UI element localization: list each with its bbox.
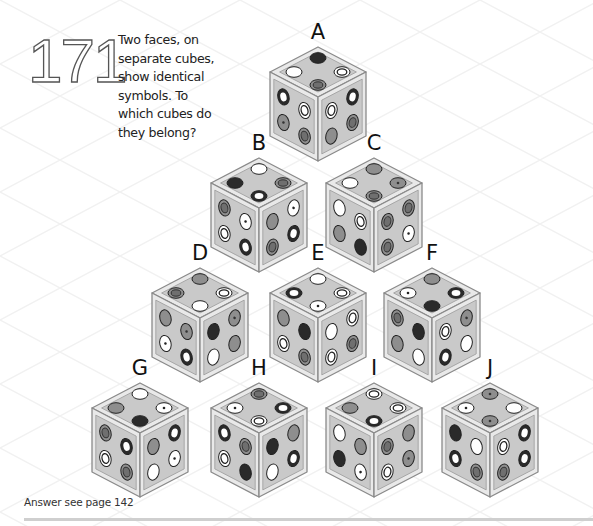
- grey-target-symbol-icon: [251, 389, 267, 400]
- cube-grid: ABCDEFGHIJ: [0, 0, 593, 526]
- target-symbol-icon: [366, 389, 382, 400]
- grey-target-symbol-icon: [168, 288, 184, 299]
- dot-symbol-icon: [458, 403, 474, 414]
- white-symbol-icon: [251, 164, 267, 175]
- dot-symbol-icon: [310, 301, 326, 312]
- white-symbol-icon: [342, 178, 358, 189]
- cube-label: F: [426, 241, 438, 265]
- answer-note: Answer see page 142: [24, 496, 134, 508]
- white-symbol-icon: [310, 274, 326, 285]
- cube-label: H: [251, 356, 267, 380]
- cube-label: B: [252, 131, 266, 155]
- black-symbol-icon: [132, 416, 148, 427]
- grey-symbol-icon: [192, 274, 208, 285]
- dot-symbol-icon: [227, 403, 243, 414]
- cube-g[interactable]: G: [92, 356, 188, 497]
- grey-target-symbol-icon: [310, 80, 326, 91]
- white-symbol-icon: [506, 403, 522, 414]
- cube-h[interactable]: H: [211, 356, 307, 497]
- cube-label: I: [371, 356, 377, 380]
- target-symbol-icon: [251, 416, 267, 427]
- grey-dot-symbol-icon: [482, 389, 498, 400]
- grey-symbol-icon: [366, 164, 382, 175]
- cube-i[interactable]: I: [326, 356, 422, 497]
- cube-label: G: [132, 356, 148, 380]
- cube-label: E: [311, 241, 324, 265]
- grey-target-symbol-icon: [275, 178, 291, 189]
- white-symbol-icon: [192, 301, 208, 312]
- target-symbol-icon: [334, 288, 350, 299]
- black-symbol-icon: [424, 301, 440, 312]
- white-symbol-icon: [132, 389, 148, 400]
- grey-symbol-icon: [108, 403, 124, 414]
- cube-e[interactable]: E: [270, 241, 366, 382]
- grey-symbol-icon: [424, 274, 440, 285]
- grey-dot-symbol-icon: [390, 178, 406, 189]
- dot-symbol-icon: [156, 403, 172, 414]
- cube-b[interactable]: B: [211, 131, 307, 272]
- cube-f[interactable]: F: [384, 241, 480, 382]
- grey-dot-symbol-icon: [482, 416, 498, 427]
- target-symbol-icon: [216, 288, 232, 299]
- ring-symbol-icon: [275, 403, 291, 414]
- cube-d[interactable]: D: [152, 241, 248, 382]
- cube-label: C: [367, 131, 382, 155]
- ring-symbol-icon: [366, 416, 382, 427]
- black-symbol-icon: [227, 178, 243, 189]
- grey-target-symbol-icon: [366, 191, 382, 202]
- cube-c[interactable]: C: [326, 131, 422, 272]
- white-symbol-icon: [286, 67, 302, 78]
- target-symbol-icon: [334, 67, 350, 78]
- cube-j[interactable]: J: [442, 356, 538, 497]
- ring-symbol-icon: [448, 288, 464, 299]
- ring-symbol-icon: [251, 191, 267, 202]
- cube-label: J: [485, 356, 493, 380]
- ring-symbol-icon: [286, 288, 302, 299]
- footer-divider: [24, 518, 593, 521]
- target-symbol-icon: [390, 403, 406, 414]
- cube-a[interactable]: A: [270, 20, 366, 161]
- grey-symbol-icon: [342, 403, 358, 414]
- black-symbol-icon: [310, 53, 326, 64]
- cube-label: A: [311, 20, 326, 44]
- cube-label: D: [192, 241, 208, 265]
- dot-symbol-icon: [400, 288, 416, 299]
